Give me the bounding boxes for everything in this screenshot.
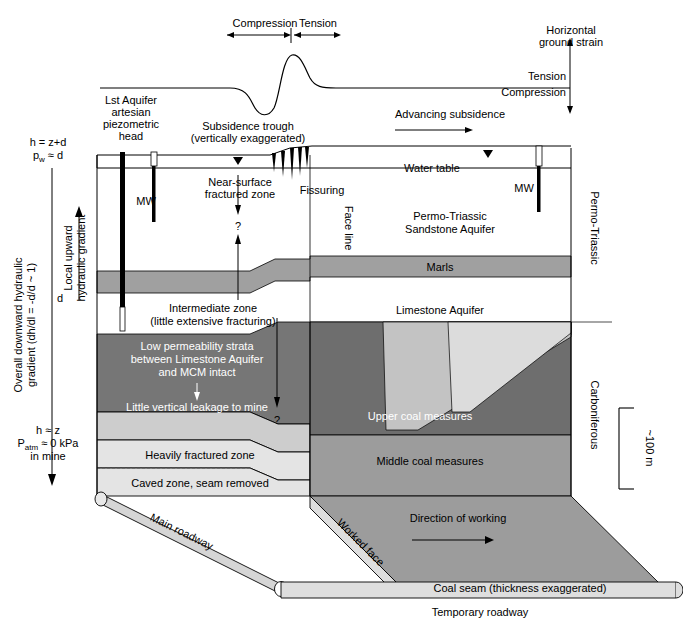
subsidence-trough-line1: Subsidence trough	[202, 120, 294, 132]
compression-arrow-right	[284, 32, 291, 38]
local-gradient-line2: hydraulic gradient	[75, 215, 87, 302]
coal-seam-label: Coal seam (thickness exaggerated)	[433, 582, 606, 594]
heavily-fractured-label: Heavily fractured zone	[145, 449, 254, 461]
question-mark-surface: ?	[235, 220, 241, 232]
low-perm-line2: between Limestone Aquifer	[131, 353, 264, 365]
overall-gradient-line2: gradient (dh/dl = -d/d ~ 1)	[25, 263, 37, 387]
temporary-roadway-label: Temporary roadway	[432, 606, 529, 618]
fissuring-label: Fissuring	[300, 184, 345, 196]
caved-zone-label: Caved zone, seam removed	[131, 477, 269, 489]
advancing-subsidence-label: Advancing subsidence	[395, 108, 505, 120]
hydraulic-annotations: h = z+d pw ≈ d Overall downward hydrauli…	[12, 136, 87, 486]
head-top-line1: h = z+d	[30, 136, 67, 148]
water-table-label: Water table	[404, 162, 460, 174]
downward-gradient-arrowhead	[48, 474, 56, 486]
lst-aquifer-line4: head	[119, 130, 143, 142]
artesian-borehole-casing	[120, 152, 125, 307]
compression-label: Compression	[233, 17, 298, 29]
horizontal-strain-curve	[100, 55, 570, 115]
ground-strain-title-line1: Horizontal	[546, 24, 596, 36]
temporary-roadway-right-cap	[676, 582, 683, 598]
advancing-subsidence-arrowhead	[465, 127, 473, 133]
axis-tension-label: Tension	[528, 70, 566, 82]
cross-section-svg: Compression Tension Horizontal ground st…	[0, 0, 683, 629]
local-gradient-line1: Local upward	[62, 225, 74, 290]
head-bottom-line3: in mine	[30, 450, 65, 462]
axis-compression-label: Compression	[501, 86, 566, 98]
subsidence-trough-line2: (vertically exaggerated)	[191, 132, 305, 144]
intermediate-zone-line1: Intermediate zone	[169, 302, 257, 314]
question-mark-deep: ?	[274, 414, 280, 426]
tension-arrow-left	[294, 32, 301, 38]
mw-right-label: MW	[514, 182, 534, 194]
artesian-borehole-screen	[120, 307, 125, 331]
near-surface-line1: Near-surface	[208, 176, 272, 188]
sandstone-aquifer-line2: Sandstone Aquifer	[405, 223, 495, 235]
lst-aquifer-line2: artesian	[111, 106, 150, 118]
near-surface-line2: fractured zone	[205, 188, 275, 200]
tension-label: Tension	[299, 17, 337, 29]
intermediate-zone-line2: (little extensive fracturing)	[150, 315, 275, 327]
face-line-label: Face line	[343, 206, 355, 251]
middle-coal-measures-label: Middle coal measures	[377, 455, 484, 467]
mw-left-head	[151, 152, 157, 166]
figure-canvas: Compression Tension Horizontal ground st…	[0, 0, 683, 629]
little-leakage-label: Little vertical leakage to mine	[126, 401, 268, 413]
depth-symbol-d: d	[57, 292, 63, 304]
overall-gradient-line1: Overall downward hydraulic	[12, 257, 24, 393]
ground-strain-title-line2: ground strain	[539, 36, 603, 48]
low-perm-line3: and MCM intact	[158, 366, 235, 378]
head-top-line2: pw ≈ d	[33, 149, 63, 164]
sandstone-aquifer-line1: Permo-Triassic	[413, 210, 487, 222]
main-roadway-tube	[101, 494, 281, 594]
head-bottom-line1: h ≈ z	[36, 424, 60, 436]
low-perm-line1: Low permeability strata	[140, 340, 254, 352]
lst-aquifer-line3: piezometric	[103, 118, 160, 130]
limestone-aquifer-label: Limestone Aquifer	[396, 304, 484, 316]
permo-triassic-axis-label: Permo-Triassic	[589, 191, 601, 265]
compression-arrow-left	[227, 32, 234, 38]
strain-curve-group: Compression Tension Horizontal ground st…	[100, 17, 603, 133]
scale-bar-label: ~100 m	[644, 430, 656, 467]
main-roadway-top-cap	[95, 492, 107, 506]
mw-left-label: MW	[136, 195, 156, 207]
direction-of-working-label: Direction of working	[410, 512, 507, 524]
scale-bar: ~100 m	[619, 408, 656, 489]
marls-label: Marls	[427, 261, 454, 273]
upper-coal-measures-label: Upper coal measures	[368, 410, 473, 422]
tension-arrow-right	[334, 32, 341, 38]
lst-aquifer-line1: Lst Aquifer	[105, 94, 157, 106]
strain-axis-arrow-down	[567, 106, 573, 114]
carboniferous-axis-label: Carboniferous	[589, 380, 601, 450]
mw-right-head	[536, 146, 542, 166]
